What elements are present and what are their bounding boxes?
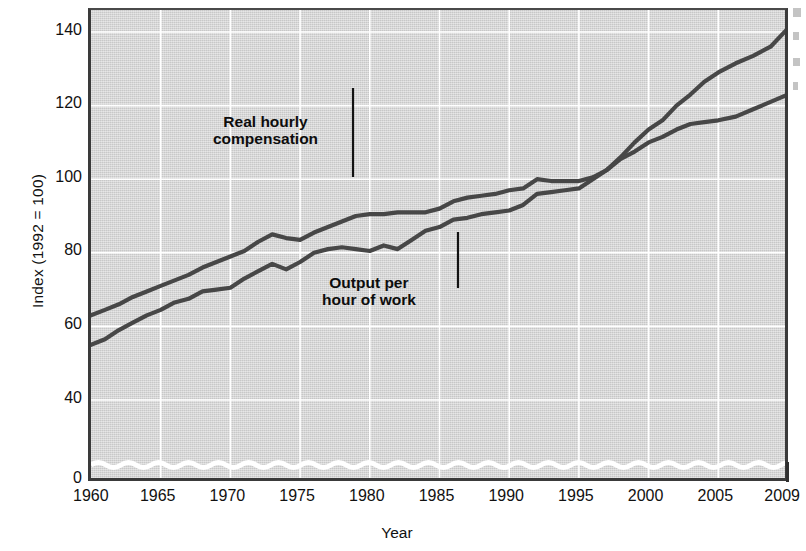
x-tick-2009: 2009 [764,488,800,504]
plot-canvas [91,10,785,480]
x-tick-1990: 1990 [488,488,524,504]
annotation-real-hourly-compensation: Real hourly compensation [213,113,318,148]
plot-area [88,8,788,480]
annotation-compensation-line1: Real hourly [213,113,318,130]
annotation-output-per-hour: Output per hour of work [322,274,416,309]
y-tick-60: 60 [26,316,82,332]
y-tick-100: 100 [26,169,82,185]
margin-text-fragment [793,6,806,102]
chart-svg [91,10,788,480]
x-tick-1980: 1980 [349,488,385,504]
y-tick-140: 140 [26,22,82,38]
annotation-output-line1: Output per [322,274,416,291]
annotation-compensation-line2: compensation [213,130,318,147]
annotation-leader-lines [353,88,458,288]
x-axis-line [88,478,788,481]
x-axis-label: Year [0,524,806,542]
y-tick-80: 80 [26,242,82,258]
x-tick-2000: 2000 [628,488,664,504]
x-tick-1965: 1965 [140,488,176,504]
x-tick-1985: 1985 [419,488,455,504]
y-axis-ticks: 140 120 100 80 60 40 0 [20,0,82,551]
chart-figure: Index (1992 = 100) 140 120 100 80 60 40 … [0,0,806,551]
x-tick-1995: 1995 [558,488,594,504]
y-tick-120: 120 [26,95,82,111]
x-tick-1970: 1970 [210,488,246,504]
x-axis-ticks: 1960196519701975198019851990199520002005… [0,488,806,518]
x-tick-2005: 2005 [698,488,734,504]
annotation-output-line2: hour of work [322,291,416,308]
y-tick-40: 40 [26,390,82,406]
x-axis-end-tick [786,462,789,482]
x-tick-1960: 1960 [73,488,109,504]
x-tick-1975: 1975 [279,488,315,504]
y-tick-0: 0 [26,470,82,486]
gridlines [91,10,788,480]
